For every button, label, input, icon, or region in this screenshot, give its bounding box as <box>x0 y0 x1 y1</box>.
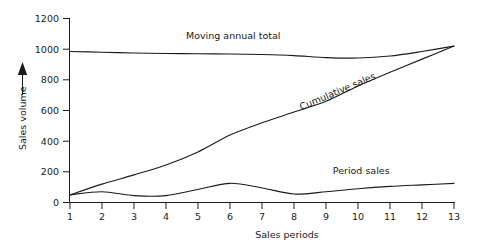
chart-container: 1200 1000 800 600 400 200 0 1 <box>0 0 485 248</box>
series-line-period-sales <box>70 183 454 196</box>
y-tick-label: 1200 <box>35 13 59 24</box>
x-tick-label: 7 <box>259 211 265 222</box>
x-tick-label: 3 <box>131 211 137 222</box>
x-axis-title: Sales periods <box>255 229 319 240</box>
x-tick-label: 11 <box>384 211 396 222</box>
x-tick-label: 10 <box>352 211 364 222</box>
x-axis-tick-labels: 1 2 3 4 5 6 7 8 9 10 11 12 13 <box>67 211 460 222</box>
x-tick-label: 5 <box>195 211 201 222</box>
series-line-cumulative-sales <box>70 46 454 195</box>
series-line-moving-annual-total <box>70 46 454 58</box>
x-tick-label: 2 <box>99 211 105 222</box>
series-label-period-sales: Period sales <box>333 165 390 176</box>
y-tick-label: 400 <box>41 136 59 147</box>
y-tick-label: 800 <box>41 74 59 85</box>
y-tick-label: 1000 <box>35 44 59 55</box>
x-axis-ticks <box>70 203 454 210</box>
series-label-cumulative-sales: Cumulative sales <box>298 70 377 112</box>
series-label-moving-annual-total: Moving annual total <box>186 30 280 41</box>
x-tick-label: 6 <box>227 211 233 222</box>
x-tick-label: 8 <box>291 211 297 222</box>
y-tick-label: 0 <box>53 197 59 208</box>
x-tick-label: 4 <box>163 211 169 222</box>
y-tick-label: 600 <box>41 105 59 116</box>
y-axis-ticks <box>63 19 70 203</box>
y-axis-title: Sales volume <box>17 86 28 150</box>
x-tick-label: 13 <box>448 211 460 222</box>
line-chart: 1200 1000 800 600 400 200 0 1 <box>0 0 485 248</box>
x-tick-label: 1 <box>67 211 73 222</box>
y-tick-label: 200 <box>41 166 59 177</box>
x-tick-label: 12 <box>416 211 428 222</box>
x-tick-label: 9 <box>323 211 329 222</box>
y-axis-tick-labels: 1200 1000 800 600 400 200 0 <box>35 13 59 208</box>
